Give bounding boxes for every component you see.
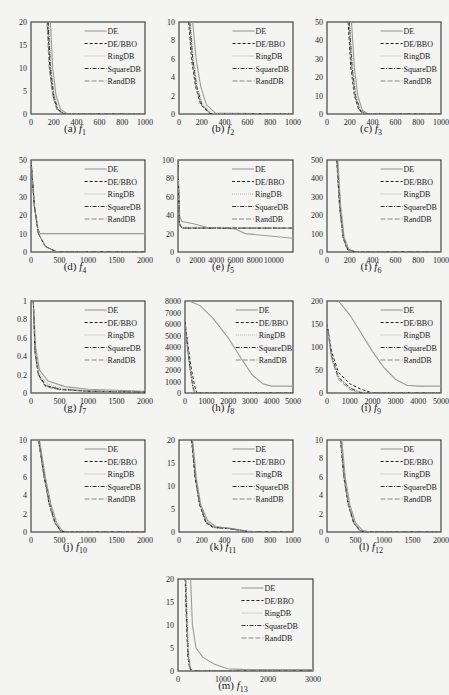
y-tick-label: 10 [19, 64, 27, 73]
y-tick-label: 0 [319, 528, 323, 537]
legend-label: SquareDB [404, 65, 437, 74]
legend-label: DE/BBO [404, 319, 434, 328]
chart-panel-h: 0100020003000400050006000700080000100020… [148, 279, 298, 416]
legend-label: RandDB [404, 356, 432, 365]
legend-label: RandDB [264, 634, 292, 643]
y-tick-label: 20 [19, 18, 27, 27]
chart-caption: (c) f3 [296, 122, 446, 137]
y-tick-label: 80 [166, 174, 174, 183]
chart-caption: (a) f1 [0, 122, 150, 137]
y-tick-label: 0 [319, 110, 323, 119]
y-tick-label: 0 [319, 248, 323, 257]
legend-label: RingDB [404, 52, 431, 61]
legend-label: RingDB [108, 470, 135, 479]
legend-label: RingDB [256, 470, 283, 479]
y-tick-label: 40 [19, 174, 27, 183]
y-tick-label: 8000 [165, 297, 181, 306]
chart-panel-c: 0102030405002004006008001000DEDE/BBORing… [296, 0, 446, 137]
y-tick-label: 100 [311, 230, 323, 239]
y-tick-label: 20 [167, 436, 175, 445]
y-tick-label: 200 [311, 211, 323, 220]
y-tick-label: 15 [19, 41, 27, 50]
chart-panel-m: 051015200100020003000DEDE/BBORingDBSquar… [148, 557, 318, 694]
legend-label: SquareDB [108, 344, 141, 353]
y-tick-label: 20 [166, 575, 174, 584]
legend-label: RingDB [108, 331, 135, 340]
chart-svg: 010203040500500100015002000DEDE/BBORingD… [0, 138, 150, 263]
y-tick-label: 0 [23, 389, 27, 398]
y-tick-label: 8 [23, 454, 27, 463]
legend-label: DE/BBO [108, 40, 138, 49]
y-tick-label: 1000 [165, 378, 181, 387]
legend-label: DE/BBO [255, 178, 285, 187]
legend-label: RingDB [108, 52, 135, 61]
y-tick-label: 2 [319, 510, 323, 519]
y-tick-label: 0 [177, 389, 181, 398]
chart-caption: (k) f11 [148, 540, 298, 555]
legend-label: SquareDB [404, 344, 437, 353]
y-tick-label: 0.4 [17, 352, 27, 361]
y-tick-label: 4 [171, 73, 175, 82]
legend-label: DE/BBO [256, 40, 286, 49]
chart-panel-f: 010020030040050002004006008001000DEDE/BB… [296, 138, 446, 275]
chart-caption: (l) f12 [296, 540, 446, 555]
y-tick-label: 0 [23, 528, 27, 537]
y-tick-label: 60 [166, 193, 174, 202]
chart-svg: 010020030040050002004006008001000DEDE/BB… [296, 138, 446, 263]
legend-label: RandDB [108, 495, 136, 504]
chart-caption: (g) f7 [0, 401, 150, 416]
legend-label: RandDB [256, 77, 284, 86]
legend-label: SquareDB [264, 622, 297, 631]
legend-label: DE [256, 27, 267, 36]
legend-label: DE/BBO [404, 178, 434, 187]
chart-caption: (j) f10 [0, 540, 150, 555]
y-tick-label: 0.2 [17, 371, 27, 380]
chart-svg: 00.20.40.60.810500100015002000DEDE/BBORi… [0, 279, 150, 404]
y-tick-label: 100 [311, 343, 323, 352]
legend-label: RandDB [255, 215, 283, 224]
y-tick-label: 0 [319, 389, 323, 398]
legend-label: DE [255, 165, 266, 174]
y-tick-label: 50 [19, 156, 27, 165]
y-tick-label: 500 [311, 156, 323, 165]
legend-label: DE/BBO [264, 597, 294, 606]
y-tick-label: 40 [166, 211, 174, 220]
y-tick-label: 5 [171, 505, 175, 514]
legend-label: DE [108, 445, 119, 454]
y-tick-label: 4 [23, 491, 27, 500]
y-tick-label: 0 [171, 528, 175, 537]
chart-panel-g: 00.20.40.60.810500100015002000DEDE/BBORi… [0, 279, 150, 416]
y-tick-label: 50 [315, 18, 323, 27]
y-tick-label: 0 [170, 667, 174, 676]
y-tick-label: 10 [167, 482, 175, 491]
legend-label: SquareDB [404, 483, 437, 492]
y-tick-label: 400 [311, 174, 323, 183]
y-tick-label: 20 [166, 230, 174, 239]
y-tick-label: 0 [23, 110, 27, 119]
y-tick-label: 2 [171, 92, 175, 101]
legend-label: SquareDB [108, 203, 141, 212]
legend-label: DE/BBO [259, 319, 289, 328]
legend-label: RingDB [404, 470, 431, 479]
y-tick-label: 300 [311, 193, 323, 202]
y-tick-label: 40 [315, 36, 323, 45]
y-tick-label: 6 [171, 55, 175, 64]
chart-panel-j: 02468100500100015002000DEDE/BBORingDBSqu… [0, 418, 150, 555]
y-tick-label: 4 [319, 491, 323, 500]
chart-panel-a: 0510152002004006008001000DEDE/BBORingDBS… [0, 0, 150, 137]
legend-label: SquareDB [256, 483, 289, 492]
y-tick-label: 20 [315, 73, 323, 82]
y-tick-label: 3000 [165, 355, 181, 364]
chart-caption: (f) f6 [296, 260, 446, 275]
legend-label: DE [264, 584, 275, 593]
chart-caption: (e) f5 [148, 260, 298, 275]
legend-label: RandDB [404, 215, 432, 224]
legend-label: DE/BBO [256, 458, 286, 467]
y-tick-label: 15 [166, 598, 174, 607]
y-tick-label: 2 [23, 510, 27, 519]
legend-label: RingDB [404, 190, 431, 199]
y-tick-label: 2000 [165, 366, 181, 375]
chart-svg: 024681002004006008001000DEDE/BBORingDBSq… [148, 0, 298, 125]
y-tick-label: 5 [23, 87, 27, 96]
legend-label: RandDB [256, 495, 284, 504]
